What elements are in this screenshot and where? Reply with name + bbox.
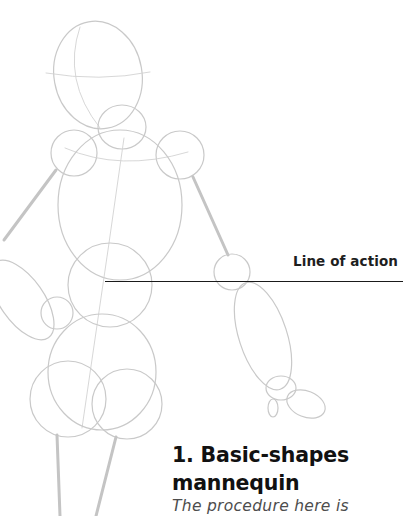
right-shoulder-shape (156, 131, 204, 179)
left-forearm-shape (0, 250, 66, 351)
right-thumb-shape (268, 399, 278, 417)
left-hip-shape (30, 361, 106, 437)
section-heading-line-1: 1. Basic-shapes (172, 441, 349, 469)
section-heading: 1. Basic-shapes mannequin (172, 441, 349, 497)
right-elbow-shape (214, 254, 250, 290)
right-hand-shape (283, 384, 330, 423)
line-of-action-label: Line of action (293, 253, 398, 269)
left-wrist-shape (41, 297, 73, 329)
head-horizontal-guide (46, 72, 150, 77)
right-upper-arm (193, 177, 228, 255)
left-leg (57, 435, 60, 516)
neck-shape (98, 105, 146, 149)
right-leg (96, 437, 116, 516)
left-upper-arm (4, 170, 56, 240)
section-heading-line-2: mannequin (172, 469, 349, 497)
line-of-action-rule (105, 281, 403, 282)
left-shoulder-shape (51, 130, 97, 176)
right-thigh-joint-shape (92, 369, 162, 439)
section-body-text: The procedure here is (172, 497, 349, 515)
